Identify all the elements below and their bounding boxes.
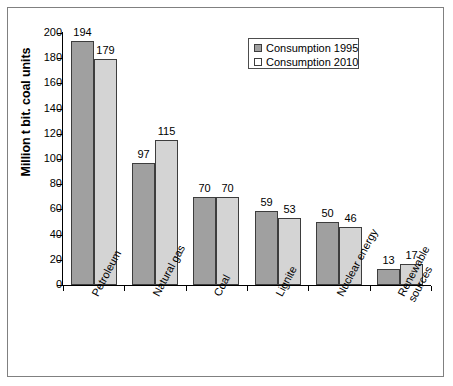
y-axis-ticks: 020406080100120140160180200 xyxy=(0,0,62,386)
x-tick-mark xyxy=(247,286,248,291)
y-tick-label: 140 xyxy=(16,103,62,114)
legend-item-consumption-2010: Consumption 2010 xyxy=(254,56,354,68)
y-tick-label: 160 xyxy=(16,77,62,88)
bar-series1 xyxy=(255,211,278,285)
y-tick-label: 100 xyxy=(16,153,62,164)
legend-item-consumption-1995: Consumption 1995 xyxy=(254,42,354,54)
bar-value-label: 70 xyxy=(209,183,246,194)
bar-value-label: 179 xyxy=(87,45,124,56)
bar-value-label: 46 xyxy=(332,213,369,224)
legend-label-2010: Consumption 2010 xyxy=(266,57,358,68)
y-tick-label: 0 xyxy=(16,279,62,290)
y-tick-label: 120 xyxy=(16,128,62,139)
y-tick-label: 80 xyxy=(16,178,62,189)
bar-series1 xyxy=(132,163,155,285)
y-axis-line xyxy=(62,32,63,286)
bar-series1 xyxy=(71,41,94,285)
bar-value-label: 115 xyxy=(148,126,185,137)
legend-swatch-icon-2010 xyxy=(254,58,262,66)
bar-series1 xyxy=(316,222,339,285)
x-tick-mark xyxy=(308,286,309,291)
bar-series2 xyxy=(216,197,239,285)
bar-value-label: 53 xyxy=(271,204,308,215)
legend-label-1995: Consumption 1995 xyxy=(266,43,358,54)
y-tick-label: 200 xyxy=(16,27,62,38)
x-tick-mark xyxy=(370,286,371,291)
bar-series1 xyxy=(377,269,400,285)
bar-value-label: 194 xyxy=(64,27,101,38)
legend-swatch-icon-1995 xyxy=(254,44,262,52)
x-tick-mark xyxy=(63,286,64,291)
y-tick-label: 60 xyxy=(16,203,62,214)
x-tick-mark xyxy=(124,286,125,291)
chart-figure: Million t bit. coal units 02040608010012… xyxy=(0,0,453,386)
y-tick-label: 180 xyxy=(16,52,62,63)
chart-legend: Consumption 1995 Consumption 2010 xyxy=(248,38,359,69)
y-tick-label: 40 xyxy=(16,229,62,240)
x-tick-mark xyxy=(186,286,187,291)
bar-series1 xyxy=(193,197,216,285)
x-tick-mark xyxy=(431,286,432,291)
y-tick-label: 20 xyxy=(16,254,62,265)
